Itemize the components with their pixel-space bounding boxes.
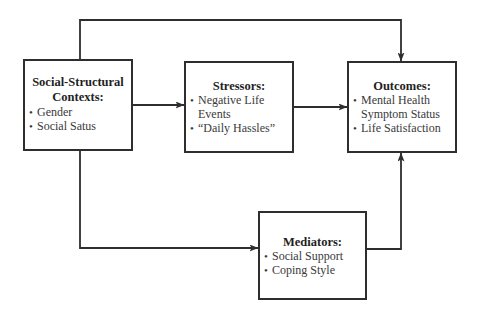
node-social-structural-contexts: Social-Structural Contexts: Gender Socia…: [23, 59, 133, 151]
node-item: Social Satus: [29, 119, 127, 133]
node-title: Mediators:: [264, 235, 361, 249]
node-item: Gender: [29, 105, 127, 119]
node-item: Life Satisfaction: [353, 121, 451, 135]
node-stressors: Stressors: Negative Life Events “Daily H…: [184, 61, 294, 153]
node-item: Social Support: [264, 249, 361, 263]
node-title: Stressors:: [190, 79, 288, 93]
node-item: “Daily Hassles”: [190, 121, 288, 135]
node-title: Outcomes:: [353, 79, 451, 93]
node-title: Social-Structural Contexts:: [29, 75, 127, 105]
node-item-list: Social Support Coping Style: [264, 249, 361, 277]
node-title-line: Contexts:: [29, 90, 127, 105]
node-item-list: Negative Life Events “Daily Hassles”: [190, 93, 288, 135]
edge-mediators-to-outcomes: [367, 153, 401, 249]
connector-layer: [0, 0, 480, 317]
node-outcomes: Outcomes: Mental Health Symptom Status L…: [347, 61, 457, 153]
edge-context-to-mediators: [80, 151, 258, 248]
node-item: Coping Style: [264, 263, 361, 277]
node-item-list: Gender Social Satus: [29, 105, 127, 133]
diagram-canvas: Social-Structural Contexts: Gender Socia…: [0, 0, 480, 317]
node-item: Negative Life Events: [190, 93, 288, 121]
node-mediators: Mediators: Social Support Coping Style: [258, 211, 367, 300]
node-item-list: Mental Health Symptom Status Life Satisf…: [353, 93, 451, 135]
node-item: Mental Health Symptom Status: [353, 93, 451, 121]
node-title-line: Social-Structural: [29, 75, 127, 90]
edge-context-to-outcomes: [80, 20, 401, 61]
